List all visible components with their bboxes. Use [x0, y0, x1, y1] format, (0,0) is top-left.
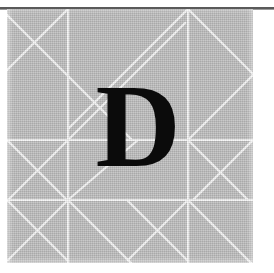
- grid-diagonal: [188, 200, 251, 263]
- grid-diagonal: [68, 200, 131, 263]
- figure-root: D: [0, 0, 274, 273]
- grid-diagonal: [193, 140, 253, 200]
- grid-diagonal: [189, 75, 253, 139]
- grid-diagonal: [188, 140, 248, 200]
- grid-diagonal: [188, 9, 253, 74]
- capital-letter-glyph: D: [83, 72, 193, 182]
- grid-diagonal: [7, 9, 68, 70]
